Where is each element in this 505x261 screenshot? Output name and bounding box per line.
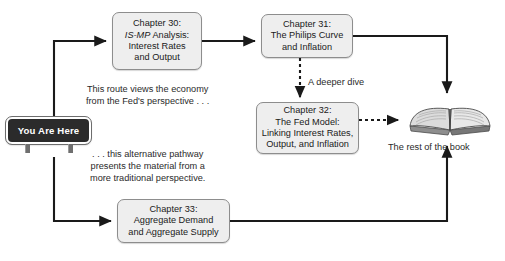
annotation-alternative-route: . . . this alternative pathway presents … [90,148,205,185]
chapter-33-line-3: and Aggregate Supply [128,227,218,238]
chapter-30-ismp-italic: IS-MP [125,30,151,40]
you-are-here-label: You Are Here [6,117,91,144]
you-are-here-sign: You Are Here [6,117,91,157]
chapter-30-line-1: Chapter 30: [133,18,181,29]
annotation-alternative-route-line-2: presents the material from a [90,160,205,172]
node-chapter-33[interactable]: Chapter 33: Aggregate Demand and Aggrega… [117,199,230,243]
chapter-30-line-2-rest: Analysis: [150,30,189,40]
connector-ch33-to-book [230,146,447,221]
flowchart-figure: Chapter 30: IS-MP Analysis: Interest Rat… [0,0,505,261]
chapter-30-line-2: IS-MP Analysis: [125,30,189,41]
label-a-deeper-dive: A deeper dive [308,76,364,88]
annotation-fed-route: This route views the economy from the Fe… [86,83,209,107]
connector-ch31-to-book [353,36,447,93]
chapter-30-line-4: and Output [134,52,179,63]
annotation-alternative-route-line-1: . . . this alternative pathway [90,148,205,160]
annotation-fed-route-line-2: from the Fed's perspective . . . [86,95,209,107]
chapter-33-line-1: Chapter 33: [149,204,197,215]
caption-the-rest-of-the-book: The rest of the book [388,141,470,153]
annotation-alternative-route-line-3: more traditional perspective. [90,172,205,184]
chapter-32-line-4: Output, and Inflation [266,139,349,150]
sign-post-left [25,144,30,153]
chapter-31-line-3: and Inflation [282,42,332,53]
chapter-31-line-2: The Philips Curve [271,30,344,41]
chapter-30-line-3: Interest Rates [128,41,185,52]
node-chapter-30[interactable]: Chapter 30: IS-MP Analysis: Interest Rat… [112,12,202,70]
chapter-32-line-3: Linking Interest Rates, [262,128,353,139]
annotation-fed-route-line-1: This route views the economy [86,83,209,95]
sign-post-right [68,144,73,153]
chapter-33-line-2: Aggregate Demand [134,215,214,226]
node-chapter-32[interactable]: Chapter 32: The Fed Model: Linking Inter… [256,102,359,154]
node-chapter-31[interactable]: Chapter 31: The Philips Curve and Inflat… [261,14,353,58]
open-book-icon [406,100,494,138]
chapter-31-line-1: Chapter 31: [283,19,331,30]
chapter-32-line-2: The Fed Model: [275,117,339,128]
chapter-32-line-1: Chapter 32: [283,105,331,116]
